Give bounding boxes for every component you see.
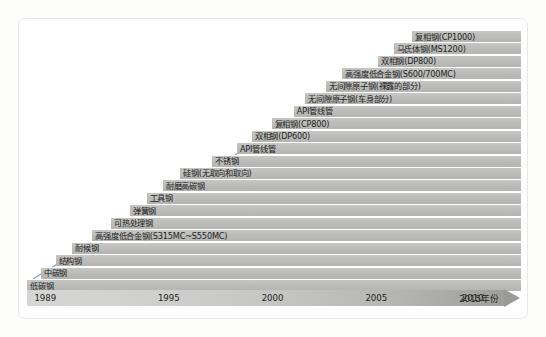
bar-row: 耐候钢	[72, 242, 521, 255]
bar-row: 高强度低合金钢(S600/700MC)	[342, 67, 521, 80]
bar-label: 耐磨高碳钢	[166, 181, 205, 191]
bar-row: 马氏体钢(MS1200)	[394, 42, 521, 55]
bar-row: API管线管	[294, 105, 521, 118]
bar-label: API管线管	[297, 106, 333, 116]
bar-row: 双相钢(DP600)	[252, 130, 521, 143]
bar-row: API管线管	[237, 142, 521, 155]
bar-label: 弹簧钢	[133, 206, 156, 216]
chart-card: 复相钢(CP1000)马氏体钢(MS1200)双相钢(DP800)高强度低合金钢…	[18, 18, 528, 319]
bar-row: 耐磨高碳钢	[163, 179, 521, 192]
x-tick-label: 2000	[262, 293, 284, 303]
bar-row: 可热处理钢	[111, 217, 521, 230]
bar-label: 可热处理钢	[114, 218, 153, 228]
bar-row: 工具钢	[147, 192, 521, 205]
bar-row: 无间隙原子钢(裸露的部分)	[326, 80, 521, 93]
bar-row: 复相钢(CP1000)	[412, 30, 521, 43]
bar-label: 双相钢(DP800)	[381, 56, 436, 66]
plot-area: 复相钢(CP1000)马氏体钢(MS1200)双相钢(DP800)高强度低合金钢…	[27, 26, 521, 291]
bar-row: 弹簧钢	[130, 204, 521, 217]
bar-label: 中碳钢	[44, 268, 67, 278]
x-tick-label: 2015年份	[459, 292, 499, 304]
bar-row: 结构钢	[56, 254, 521, 267]
bar-label: API管线管	[240, 144, 276, 154]
x-axis-arrowhead-icon	[504, 289, 520, 307]
bar-label: 马氏体钢(MS1200)	[397, 44, 466, 54]
x-tick-label: 1989	[34, 293, 56, 303]
bar-label: 高强度低合金钢(S600/700MC)	[345, 69, 456, 79]
bar-label: 复相钢(CP800)	[275, 119, 330, 129]
bar-row: 中碳钢	[41, 267, 521, 280]
bar-row: 硅钢(无取向和取向)	[180, 167, 521, 180]
bar-row: 双相钢(DP800)	[378, 55, 521, 68]
bar-row: 复相钢(CP800)	[272, 117, 521, 130]
x-tick-label: 1995	[158, 293, 180, 303]
bar-label: 无间隙原子钢(裸露的部分)	[329, 81, 421, 91]
bar-row: 不锈钢	[212, 155, 521, 168]
bar-label: 耐候钢	[75, 243, 98, 253]
bar-label: 硅钢(无取向和取向)	[183, 168, 251, 178]
x-axis: 198919952000200520102015年份	[27, 290, 521, 306]
bar-label: 不锈钢	[215, 156, 238, 166]
bar-label: 无间隙原子钢(车身部分)	[308, 94, 392, 104]
x-tick-label: 2005	[365, 293, 387, 303]
figure-root: 复相钢(CP1000)马氏体钢(MS1200)双相钢(DP800)高强度低合金钢…	[0, 0, 546, 337]
bar-label: 高强度低合金钢(S315MC~S550MC)	[95, 231, 227, 241]
bar-label: 结构钢	[59, 256, 82, 266]
bar-label: 低碳钢	[30, 281, 53, 291]
bar-label: 双相钢(DP600)	[255, 131, 310, 141]
bar-row: 无间隙原子钢(车身部分)	[305, 92, 521, 105]
bar-label: 复相钢(CP1000)	[415, 32, 475, 42]
bar-row: 高强度低合金钢(S315MC~S550MC)	[92, 229, 521, 242]
bar-label: 工具钢	[150, 193, 173, 203]
